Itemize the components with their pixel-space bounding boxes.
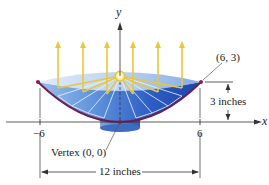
- parabolic-dish-diagram: [0, 0, 269, 185]
- point-leader: [203, 63, 222, 80]
- point-label: (6, 3): [216, 52, 240, 63]
- point-neg6-3: [36, 80, 40, 84]
- tick-label-neg6: −6: [33, 128, 45, 139]
- x-axis-label: x: [262, 115, 267, 127]
- vertex-label: Vertex (0, 0): [51, 147, 106, 158]
- depth-label: 3 inches: [210, 96, 246, 107]
- tick-label-6: 6: [197, 128, 203, 139]
- y-axis-label: y: [116, 6, 121, 18]
- width-label: 12 inches: [99, 166, 141, 177]
- point-6-3: [199, 80, 203, 84]
